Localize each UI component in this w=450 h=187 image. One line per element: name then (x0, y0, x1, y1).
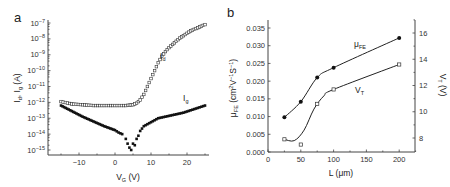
panel-b-y-tick-label: 0.010 (246, 112, 265, 121)
y2-title-part: (V) (438, 83, 448, 97)
panel-a-label: a (14, 10, 22, 25)
panel-b-y-tick-label: 0.015 (246, 94, 265, 103)
ig-data-point (126, 142, 129, 145)
id-data-point (155, 65, 158, 68)
id-data-point (148, 81, 151, 84)
panel-a-y-tick-label-sup: −14 (36, 129, 45, 135)
ig-data-point (204, 104, 207, 107)
panel-a: a −100102010−710−810−910−1010−1110−1210−… (12, 10, 209, 183)
ig-data-point (128, 146, 131, 149)
panel-b-x-tick-label: 0 (266, 155, 270, 164)
panel-b-y-tick-label: 0.035 (246, 24, 265, 33)
id-data-point (146, 85, 149, 88)
panel-a-x-axis-title: VG (V) (116, 172, 140, 183)
ig-data-point (125, 138, 128, 141)
panel-b-series (282, 36, 401, 146)
ig-data-point (121, 133, 124, 136)
panel-a-y-tick-label-sup: −13 (36, 113, 45, 119)
panel-a-y-tick-label-sup: −8 (39, 33, 45, 39)
panel-a-y-tick-label: 10−13 (27, 113, 45, 123)
panel-a-y-tick-label: 10−12 (27, 97, 45, 107)
y-title-part: , I (12, 90, 22, 97)
panel-a-y-tick-label-sup: −12 (36, 97, 45, 103)
panel-a-y-tick-label: 10−7 (30, 18, 45, 28)
panel-a-y-tick-label-base: 10 (27, 114, 35, 123)
id-data-point (150, 77, 153, 80)
mufe-line (284, 38, 399, 117)
mufe-data-point (332, 66, 336, 70)
panel-b-x-tick-label: 150 (360, 155, 373, 164)
id-data-point (152, 73, 155, 76)
panel-a-y-tick-label: 10−9 (30, 49, 45, 59)
panel-a-axes (48, 20, 209, 155)
id-data-point (143, 93, 146, 96)
panel-a-y-tick-label-sup: −7 (39, 18, 45, 24)
panel-b-x-axis-title: L (μm) (329, 168, 354, 178)
panel-b-y-tick-label: 0.000 (246, 148, 265, 157)
panel-b-y-tick-label: 0.020 (246, 77, 265, 86)
x-title-rest: (V) (126, 172, 140, 182)
panel-a-y-tick-label-base: 10 (27, 98, 35, 107)
panel-a-y-tick-label: 10−11 (28, 81, 45, 91)
panel-a-y-tick-label-base: 10 (27, 130, 35, 139)
vt-series-label-sub: T (361, 90, 365, 96)
panel-b-y2-tick-label: 14 (419, 55, 427, 64)
panel-a-x-tick-label: 0 (113, 158, 117, 167)
panel-b-y2-tick-label: 12 (419, 81, 427, 90)
panel-a-y-tick-label-base: 10 (30, 34, 38, 43)
y-title-part: (A) (12, 73, 22, 87)
panel-a-series (60, 23, 207, 151)
vt-data-point (283, 138, 286, 141)
panel-a-y-tick-label-sup: −11 (36, 81, 45, 87)
panel-a-y-tick-label-base: 10 (27, 146, 35, 155)
vt-data-point (316, 102, 319, 105)
panel-a-y-tick-label-base: 10 (30, 50, 38, 59)
panel-a-y-axis-title: Id, Ig (A) (12, 73, 23, 102)
vt-data-point (398, 63, 401, 66)
panel-b-x-tick-label: 100 (327, 155, 340, 164)
panel-b-x-tick-label: 200 (393, 155, 406, 164)
ig-data-point (139, 130, 142, 133)
vt-data-point (299, 143, 302, 146)
ig-series-label: Ig (183, 93, 188, 104)
panel-a-y-tick-label-base: 10 (30, 19, 38, 28)
panel-b-label: b (227, 5, 234, 20)
id-series-label-sub: d (162, 56, 165, 62)
panel-b-x-tick-label: 50 (297, 155, 305, 164)
panel-a-y-tick-label-base: 10 (28, 82, 36, 91)
figure: a −100102010−710−810−910−1010−1110−1210−… (0, 0, 450, 187)
y-title-part: ) (228, 59, 238, 62)
ig-data-point (135, 138, 138, 141)
ig-data-point (137, 134, 140, 137)
id-data-point (139, 99, 142, 102)
mufe-data-point (282, 115, 286, 119)
panel-a-x-tick-label: 20 (183, 158, 191, 167)
panel-b-y-axis-title: μFE (cm2V−1S−1) (228, 59, 239, 117)
panel-b-y2-axis-title: VT (V) (437, 74, 448, 97)
ig-series-label-sub: g (185, 98, 188, 104)
panel-b-y-tick-label: 0.030 (246, 41, 265, 50)
ig-data-point (141, 127, 144, 130)
panel-b-ticks: 0501001502000.0000.0050.0100.0150.0200.0… (246, 20, 427, 164)
panel-a-y-tick-label-sup: −10 (36, 65, 45, 71)
panel-b-y-tick-label: 0.005 (246, 130, 265, 139)
panel-a-y-tick-label-sup: −15 (36, 145, 45, 151)
panel-a-y-tick-label: 10−15 (27, 145, 45, 155)
vt-data-point (332, 88, 335, 91)
panel-a-y-tick-label: 10−10 (27, 65, 45, 75)
mufe-series-label: μFE (354, 39, 366, 50)
ig-data-point (130, 149, 133, 152)
id-data-point (153, 69, 156, 72)
id-data-point (144, 89, 147, 92)
panel-a-y-tick-label: 10−14 (27, 129, 45, 139)
id-data-point (141, 96, 144, 99)
panel-a-x-tick-label: 10 (147, 158, 155, 167)
panel-b: b 0501001502000.0000.0050.0100.0150.0200… (227, 5, 448, 178)
mufe-data-point (397, 36, 401, 40)
panel-b-y2-tick-label: 8 (419, 134, 423, 143)
id-data-point (204, 23, 207, 26)
panel-a-y-tick-label: 10−8 (30, 33, 45, 43)
panel-a-y-tick-label-base: 10 (27, 66, 35, 75)
id-data-point (157, 61, 160, 64)
vt-series-label: VT (355, 85, 365, 96)
